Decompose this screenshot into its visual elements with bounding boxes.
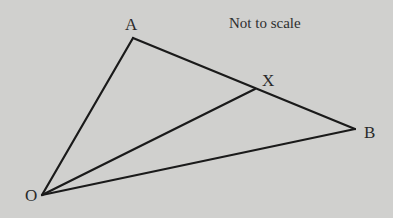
point-label-x: X xyxy=(262,72,274,89)
segment-OB xyxy=(42,129,355,195)
vertex-label-b: B xyxy=(364,124,375,141)
vertex-label-a: A xyxy=(125,16,137,33)
diagram-canvas: A X B O Not to scale xyxy=(0,0,393,218)
triangle-figure xyxy=(0,0,393,218)
not-to-scale-note: Not to scale xyxy=(229,16,301,31)
vertex-label-o: O xyxy=(25,187,37,204)
segment-AB xyxy=(133,38,355,129)
